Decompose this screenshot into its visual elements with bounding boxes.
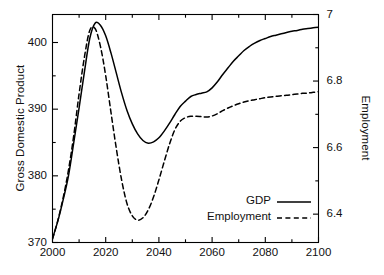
series-line-gdp <box>53 22 319 238</box>
y-axis-left-tick-label: 380 <box>15 169 47 181</box>
x-axis-tick-label: 2100 <box>294 246 344 258</box>
y-axis-left-tick-label: 390 <box>15 102 47 114</box>
x-axis-tick-label: 2060 <box>187 246 237 258</box>
x-axis-tick-label: 2080 <box>240 246 290 258</box>
plot-area <box>0 0 384 275</box>
legend-label-gdp: GDP <box>151 194 271 206</box>
x-axis-tick-label: 2020 <box>81 246 131 258</box>
series-line-employment <box>53 27 319 239</box>
legend-label-employment: Employment <box>151 210 271 222</box>
plot-frame <box>53 15 319 243</box>
x-axis-tick-label: 2000 <box>28 246 78 258</box>
y-axis-right-tick-label: 7 <box>327 8 361 20</box>
y-axis-left-tick-label: 370 <box>15 236 47 248</box>
y-axis-right-tick-label: 6.4 <box>327 207 361 219</box>
gdp-employment-chart: Gross Domestic Product Employment 200020… <box>0 0 384 275</box>
y-axis-right-tick-label: 6.8 <box>327 74 361 86</box>
x-axis-tick-label: 2040 <box>134 246 184 258</box>
y-axis-left-tick-label: 400 <box>15 36 47 48</box>
y-axis-right-tick-label: 6.6 <box>327 141 361 153</box>
